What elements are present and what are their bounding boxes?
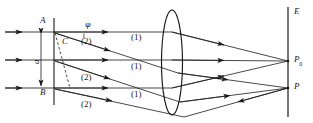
diffracted-rays-group-1 xyxy=(54,32,172,88)
label-focus-P0: P0 xyxy=(294,55,303,66)
incident-rays xyxy=(5,32,54,88)
diffracted-rays-group-2 xyxy=(55,33,184,117)
converge-P0-from-bottom-arrow xyxy=(172,76,224,88)
optics-diagram-canvas: A B a C φ (2) (2) (2) (1) (1) (1) E P0 P xyxy=(0,0,313,123)
converge-P0-from-top-arrow xyxy=(172,32,224,45)
converging-rays-to-P xyxy=(178,73,288,117)
focus-point-P0 xyxy=(287,60,290,63)
label-slit-top-A: A xyxy=(40,16,46,25)
label-slit-bottom-B: B xyxy=(40,88,46,97)
label-wavefront-1-top: (1) xyxy=(131,33,142,42)
focus-point-P xyxy=(287,87,290,90)
converge-P-from-ray2-middle-arrow xyxy=(180,96,230,103)
label-wavefront-2-top: (2) xyxy=(81,37,92,46)
label-point-C: C xyxy=(62,37,68,46)
label-slit-width-a: a xyxy=(32,60,41,65)
label-wavefront-1-bottom: (1) xyxy=(131,90,142,99)
label-focus-P0-subscript: 0 xyxy=(299,61,302,67)
label-wavefront-2-middle: (2) xyxy=(81,73,92,82)
converging-rays-to-P0 xyxy=(172,32,288,88)
label-wavefront-1-middle: (1) xyxy=(131,62,142,71)
label-screen-E: E xyxy=(294,7,300,16)
ray-diagram-svg xyxy=(0,0,313,123)
converge-P-from-ray2-bottom-arrow xyxy=(238,88,288,102)
label-wavefront-2-bottom: (2) xyxy=(81,100,92,109)
label-focus-P: P xyxy=(294,82,300,91)
label-angle-phi: φ xyxy=(85,21,91,29)
